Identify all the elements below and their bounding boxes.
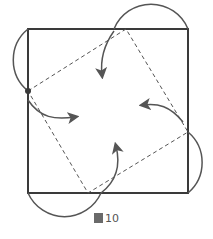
arrow-right bbox=[143, 104, 183, 122]
folding-diagram bbox=[0, 0, 213, 239]
arc-right bbox=[188, 132, 202, 193]
pivot-dot bbox=[25, 88, 31, 94]
arc-left bbox=[13, 29, 28, 91]
figure-number: 10 bbox=[105, 212, 119, 225]
figure-caption: 10 bbox=[0, 212, 213, 225]
outer-square bbox=[28, 29, 188, 193]
figure-glyph-icon bbox=[94, 213, 103, 223]
inner-dashed-square bbox=[28, 29, 188, 193]
arc-top bbox=[114, 4, 188, 29]
arrow-bottom bbox=[101, 146, 118, 193]
